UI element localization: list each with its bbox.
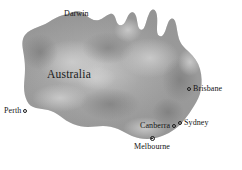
city-label-canberra: Canberra [140, 121, 170, 130]
city-marker-brisbane[interactable]: Brisbane [187, 84, 222, 93]
city-label-darwin: Darwin [64, 9, 89, 18]
city-label-perth: Perth [4, 106, 21, 115]
city-label-brisbane: Brisbane [193, 84, 222, 93]
city-marker-canberra[interactable]: Canberra [140, 121, 176, 130]
city-marker-perth[interactable]: Perth [4, 106, 27, 115]
australia-map: Australia Darwin Perth Brisbane Sydney C… [0, 0, 242, 170]
map-pin-icon [172, 124, 176, 128]
city-marker-melbourne[interactable]: Melbourne [134, 136, 170, 151]
city-label-melbourne: Melbourne [134, 142, 170, 151]
map-pin-icon [23, 109, 27, 113]
map-pin-icon [187, 87, 191, 91]
map-pin-icon [178, 121, 182, 125]
city-label-sydney: Sydney [184, 118, 209, 127]
city-marker-sydney[interactable]: Sydney [178, 118, 209, 127]
city-marker-darwin[interactable]: Darwin [64, 9, 89, 18]
map-pin-icon [150, 136, 155, 141]
continent-label: Australia [47, 68, 91, 81]
